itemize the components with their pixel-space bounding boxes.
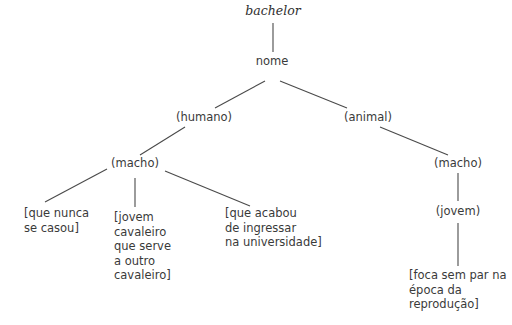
leaf-jovem-cavaleiro: [jovem cavaleiro que serve a outro caval…	[114, 210, 171, 283]
leaf-que-nunca-se-casou: [que nunca se casou]	[24, 206, 89, 235]
edge-animal-macho	[380, 127, 448, 155]
node-jovem: (jovem)	[436, 204, 480, 219]
edge-macho-leaf3	[165, 171, 250, 206]
node-macho-humano: (macho)	[111, 156, 159, 171]
leaf-que-acabou-de-ingressar: [que acabou de ingressar na universidade…	[225, 206, 322, 250]
node-bachelor: bachelor	[245, 4, 300, 19]
node-macho-animal: (macho)	[434, 156, 482, 171]
leaf-foca-sem-par: [foca sem par na época da reprodução]	[409, 268, 507, 312]
edge-humano-macho	[140, 127, 185, 155]
node-humano: (humano)	[176, 110, 232, 125]
node-animal: (animal)	[344, 110, 392, 125]
edge-macho-leaf1	[45, 169, 107, 202]
node-nome: nome	[256, 54, 289, 69]
edge-nome-animal	[280, 81, 347, 108]
edge-nome-humano	[215, 81, 265, 108]
